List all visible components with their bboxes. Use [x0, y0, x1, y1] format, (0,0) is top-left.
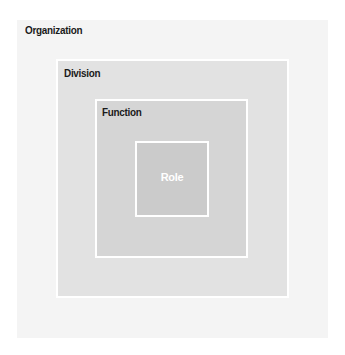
division-label: Division — [64, 67, 100, 79]
function-label: Function — [102, 106, 142, 118]
organization-label: Organization — [25, 24, 82, 36]
role-label: Role — [137, 171, 207, 183]
role-box: Role — [135, 141, 209, 217]
